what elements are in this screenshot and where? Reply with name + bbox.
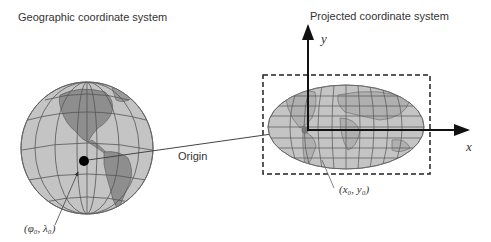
geo-origin-coordinates: (φ₀, λ₀) (24, 222, 55, 234)
projected-map (268, 85, 424, 169)
x-axis-label: x (466, 139, 472, 155)
geo-origin-dot (79, 156, 89, 166)
globe (21, 82, 153, 214)
origin-label: Origin (178, 150, 207, 162)
y-axis-label: y (321, 31, 327, 47)
diagram-canvas (0, 0, 491, 242)
projected-title: Projected coordinate system (310, 10, 449, 22)
geographic-title: Geographic coordinate system (18, 11, 167, 23)
proj-origin-coordinates: (x₀, y₀) (339, 183, 369, 195)
